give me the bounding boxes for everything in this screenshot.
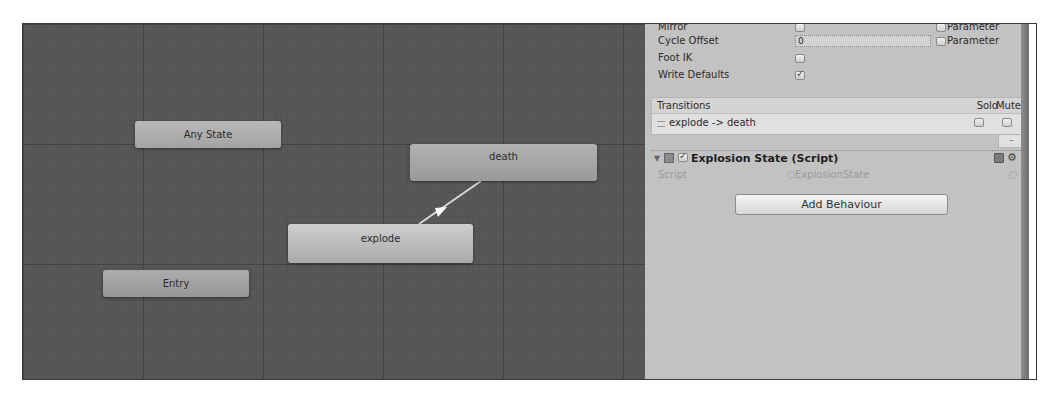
mirror-parameter-label: Parameter — [947, 23, 999, 34]
cycle-offset-parameter-checkbox[interactable] — [936, 37, 946, 46]
component-title: Explosion State (Script) — [691, 152, 838, 166]
script-asset-icon — [787, 171, 795, 179]
mirror-label: Mirror — [658, 23, 687, 34]
component-header[interactable]: ▼ ✓ Explosion State (Script) ⚙ — [645, 151, 1029, 167]
transition-arrow[interactable] — [23, 24, 645, 379]
mirror-row: Mirror Parameter — [645, 23, 1029, 34]
animator-graph[interactable]: Any State death explode Entry — [23, 24, 645, 379]
script-icon — [664, 153, 674, 163]
transitions-title: Transitions — [657, 99, 711, 112]
arrow-head-icon — [435, 207, 447, 217]
script-row: Script ExplosionState — [645, 168, 1029, 182]
transition-label: explode -> death — [669, 116, 756, 130]
solo-checkbox[interactable] — [974, 118, 984, 127]
inspector-scrollbar[interactable] — [1021, 24, 1029, 379]
script-label: Script — [658, 168, 687, 182]
add-behaviour-button[interactable]: Add Behaviour — [735, 194, 948, 215]
cycle-offset-input[interactable]: 0 — [795, 35, 931, 47]
checkmark-icon: ✓ — [796, 68, 804, 80]
cycle-offset-label: Cycle Offset — [658, 34, 719, 48]
state-node-any-state[interactable]: Any State — [135, 121, 281, 148]
foldout-arrow-icon[interactable]: ▼ — [654, 154, 660, 163]
write-defaults-label: Write Defaults — [658, 68, 729, 82]
state-node-entry[interactable]: Entry — [103, 270, 249, 297]
inspector-panel: Mirror Parameter Cycle Offset 0 Paramete… — [645, 24, 1029, 379]
object-picker-icon[interactable] — [1009, 171, 1017, 179]
help-book-icon[interactable] — [994, 153, 1004, 163]
foot-ik-label: Foot IK — [658, 51, 692, 65]
node-label: death — [410, 144, 597, 162]
state-node-explode[interactable]: explode — [288, 224, 473, 263]
mirror-checkbox[interactable] — [795, 23, 805, 32]
write-defaults-checkbox[interactable]: ✓ — [795, 71, 805, 80]
cycle-offset-row: Cycle Offset 0 Parameter — [645, 34, 1029, 48]
transition-row[interactable]: explode -> death — [652, 114, 1024, 132]
script-value: ExplosionState — [795, 169, 869, 180]
write-defaults-row: Write Defaults ✓ — [645, 68, 1029, 82]
mute-checkbox[interactable] — [1002, 118, 1012, 127]
solo-column-label: Solo — [977, 99, 998, 112]
mirror-parameter-checkbox[interactable] — [936, 23, 946, 32]
drag-handle-icon[interactable] — [657, 121, 665, 127]
state-node-death[interactable]: death — [410, 144, 597, 181]
component-enabled-checkbox[interactable]: ✓ — [678, 153, 688, 162]
cycle-offset-parameter-label: Parameter — [947, 34, 999, 48]
gear-icon[interactable]: ⚙ — [1007, 151, 1017, 165]
mute-column-label: Mute — [996, 99, 1021, 112]
checkmark-icon: ✓ — [679, 150, 687, 162]
foot-ik-checkbox[interactable] — [795, 54, 805, 63]
node-label: Entry — [103, 270, 249, 297]
window-frame: Any State death explode Entry Mirror Par… — [22, 23, 1037, 380]
transitions-header: Transitions Solo Mute — [652, 98, 1024, 114]
foot-ik-row: Foot IK — [645, 51, 1029, 65]
transitions-list: Transitions Solo Mute explode -> death — [651, 97, 1025, 135]
node-label: Any State — [135, 121, 281, 148]
script-field[interactable]: ExplosionState — [795, 168, 869, 182]
node-label: explode — [288, 224, 473, 244]
